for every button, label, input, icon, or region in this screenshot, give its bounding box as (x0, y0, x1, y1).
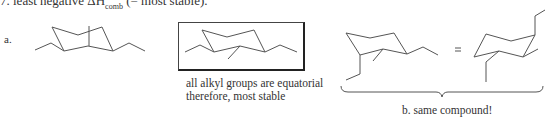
caption-line-1: all alkyl groups are equatorial (186, 77, 323, 90)
caption-line-2: therefore, most stable (186, 90, 323, 103)
molecule-chair-4 (474, 10, 545, 82)
caption-part-b: b. same compound! (402, 104, 492, 117)
caption-part-a: all alkyl groups are equatorial therefor… (186, 77, 323, 103)
molecule-chair-2-boxed (185, 30, 297, 59)
equals-sign (455, 48, 461, 51)
grouping-brace (341, 86, 543, 97)
molecule-chair-1 (35, 26, 145, 51)
molecule-chair-3 (346, 33, 438, 80)
